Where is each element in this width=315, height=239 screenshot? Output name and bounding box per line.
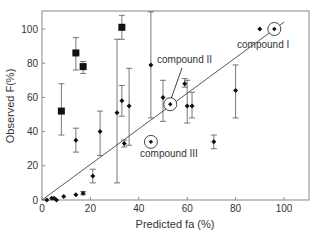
diamond-marker: [161, 95, 166, 100]
square-marker: [80, 63, 87, 70]
leader-line: [171, 68, 182, 98]
diamond-marker: [233, 88, 238, 93]
diamond-marker: [127, 103, 132, 108]
scatter-chart: 020406080100020406080100 compound Icompo…: [0, 0, 315, 239]
diamond-marker: [122, 141, 127, 146]
y-tick-label: 80: [27, 58, 39, 69]
diamond-marker: [182, 81, 187, 86]
square-marker: [118, 24, 125, 31]
square-marker: [72, 49, 79, 56]
diamond-marker: [73, 138, 78, 143]
y-tick-label: 40: [27, 126, 39, 137]
diamond-marker: [90, 174, 95, 179]
annotation-compound-i: compound I: [237, 39, 289, 50]
annotation-compound-ii: compound II: [157, 54, 212, 65]
y-tick-label: 60: [27, 92, 39, 103]
diamond-marker: [257, 27, 262, 32]
annotation-compound-iii: compound III: [140, 148, 198, 159]
y-axis-label: Observed F(%): [4, 69, 16, 144]
diamond-marker: [119, 98, 124, 103]
square-marker: [58, 108, 65, 115]
diamond-marker: [73, 192, 78, 197]
y-tick-label: 100: [21, 24, 38, 35]
diamond-marker: [115, 110, 120, 115]
diamond-marker: [190, 103, 195, 108]
x-axis-label: Predicted fa (%): [136, 218, 215, 230]
x-tick-label: 20: [85, 203, 97, 214]
diamond-marker: [61, 194, 66, 199]
x-tick-label: 100: [276, 203, 293, 214]
diamond-marker: [98, 129, 103, 134]
y-tick-label: 0: [32, 195, 38, 206]
x-tick-label: 40: [133, 203, 145, 214]
y-tick-label: 20: [27, 160, 39, 171]
x-tick-label: 80: [230, 203, 242, 214]
x-tick-label: 0: [39, 203, 45, 214]
x-tick-label: 60: [182, 203, 194, 214]
diamond-marker: [185, 103, 190, 108]
diamond-marker: [148, 62, 153, 67]
diamond-marker: [211, 139, 216, 144]
